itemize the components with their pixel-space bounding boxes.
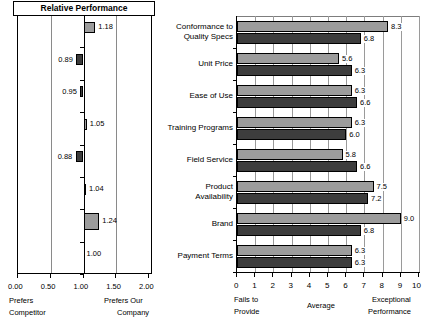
right-category-tick [233,112,237,113]
left-caption-prefers-competitor-line1: Prefers [9,296,33,306]
right-bar-value: 6.6 [359,163,371,171]
right-bar-value: 6.8 [363,227,375,235]
right-bar-value: 7.5 [376,183,388,191]
right-bar-our-company [237,53,339,64]
right-caption-fails-to-provide-line2: Provide [234,307,259,317]
left-category-tick [80,242,84,243]
left-bar-value: 0.89 [58,56,73,64]
right-axis-tick-label: 5 [325,281,329,290]
right-axis-tick [418,272,419,277]
right-category-label: Unit Price [155,59,233,69]
right-axis-line [236,272,420,273]
right-category-label: Training Programs [155,123,233,133]
right-bar-our-company [237,21,388,32]
right-axis-tick-label: 6 [343,281,347,290]
right-axis-tick [327,272,328,277]
left-bar [80,86,83,97]
right-axis-tick-label: 8 [380,281,384,290]
left-category-tick [80,177,84,178]
left-axis-tick-label: 0.00 [8,282,23,291]
right-bar-our-company [237,85,352,96]
right-category-label-line: Field Service [155,155,233,165]
left-baseline [84,15,85,274]
right-axis-tick-label: 1 [252,281,256,290]
right-category-label-line: Quality Specs [155,32,233,42]
right-category-tick [233,144,237,145]
right-bar-value: 6.3 [354,87,366,95]
right-caption-fails-to-provide-line1: Fails to [234,295,258,305]
relative-performance-chart: Relative Performance 1.180.890.951.050.8… [0,0,170,330]
left-axis-line [17,273,151,274]
right-category-tick [233,208,237,209]
left-bar-value: 1.18 [98,23,113,31]
left-axis-tick [83,273,84,278]
left-bar-value: 1.04 [89,185,104,193]
right-category-label: ProductAvailability [155,182,233,202]
right-axis-tick-label: 2 [270,281,274,290]
left-category-tick [80,145,84,146]
right-bar-value: 6.8 [363,35,375,43]
right-category-label: Payment Terms [155,251,233,261]
right-category-tick [233,48,237,49]
left-category-tick [80,112,84,113]
right-category-label-line: Product [155,182,233,192]
right-bar-value: 6.3 [354,119,366,127]
right-category-tick [233,176,237,177]
right-bar-competitor [237,129,346,140]
right-axis-tick [236,272,237,277]
left-gridline [51,15,52,274]
right-bar-competitor [237,33,361,44]
right-caption-exceptional-line1: Exceptional [372,295,411,305]
left-bar [84,184,87,195]
left-bar [84,213,100,230]
right-bar-our-company [237,213,401,224]
left-category-tick [80,80,84,81]
right-category-label: Field Service [155,155,233,165]
right-category-label: Conformance toQuality Specs [155,22,233,42]
left-bar-value: 1.05 [90,120,105,128]
left-plot-area: 1.180.890.951.050.881.041.241.00 [17,14,152,274]
right-category-label: Ease of Use [155,91,233,101]
right-axis-tick-label: 0 [234,281,238,290]
right-axis-tick-label: 9 [398,281,402,290]
right-axis-tick-label: 4 [307,281,311,290]
right-axis-tick [272,272,273,277]
left-bar [84,119,87,130]
right-x-axis [236,272,420,279]
right-bar-value: 5.6 [341,55,353,63]
right-axis-tick [309,272,310,277]
right-bar-value: 6.0 [348,131,360,139]
right-bar-our-company [237,245,352,256]
right-bar-value: 6.3 [354,67,366,75]
left-axis-tick-label: 0.50 [41,282,56,291]
left-caption-prefers-competitor-line2: Competitor [9,308,46,318]
left-category-tick [80,209,84,210]
right-gridline [383,16,384,272]
right-category-label-line: Availability [155,192,233,202]
right-category-label-line: Brand [155,219,233,229]
right-bar-competitor [237,161,357,172]
right-category-label-line: Training Programs [155,123,233,133]
left-axis-tick [115,273,116,278]
left-bar-value: 1.24 [102,217,117,225]
left-bar [76,54,83,65]
right-plot-area: 8.36.85.66.36.36.66.36.05.86.67.57.29.06… [236,16,420,272]
right-caption-average: Average [307,301,335,311]
left-bar-value: 0.95 [62,88,77,96]
left-bar [84,22,96,33]
right-bar-our-company [237,149,343,160]
left-bar-value: 1.00 [87,250,102,258]
right-category-tick [233,80,237,81]
right-category-label-line: Payment Terms [155,251,233,261]
left-axis-tick-label: 1.00 [74,282,89,291]
right-bar-value: 6.6 [359,99,371,107]
right-axis-tick [345,272,346,277]
right-axis-tick [382,272,383,277]
performance-ratings-chart: 8.36.85.66.36.36.66.36.05.86.67.57.29.06… [155,0,436,330]
left-bar [76,151,84,162]
right-axis-tick-label: 7 [361,281,365,290]
right-gridline [419,16,420,272]
right-bar-competitor [237,193,368,204]
right-axis-tick-label: 3 [289,281,293,290]
right-bar-competitor [237,97,357,108]
